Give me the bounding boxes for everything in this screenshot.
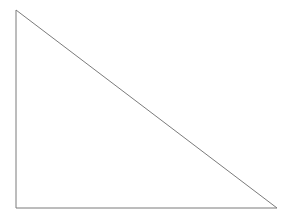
right-triangle-outline — [16, 10, 277, 208]
drawing-canvas — [0, 0, 293, 220]
triangle-figure — [0, 0, 293, 220]
